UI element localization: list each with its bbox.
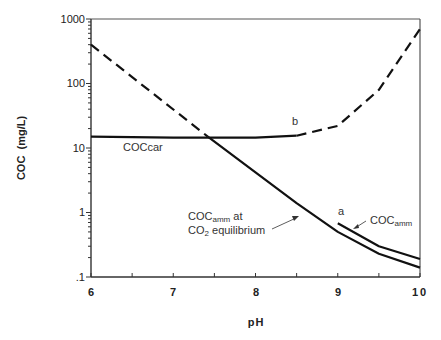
annotation-cocamm-equilibrium-line2: CO2 equilibrium — [188, 224, 265, 238]
x-tick-label: 6 — [88, 286, 94, 298]
arrow-equilibrium — [272, 218, 296, 229]
y-tick-label: 10 — [73, 142, 85, 154]
y-tick-label: 1 — [79, 206, 85, 218]
annotation-cocamm-main: COC — [370, 214, 395, 226]
x-axis-title: pH — [248, 316, 265, 328]
y-tick-label: 1000 — [61, 13, 85, 25]
x-tick-label: 7 — [170, 286, 176, 298]
arrowhead-cocamm-icon — [353, 224, 359, 229]
arrowhead-equilibrium-icon — [292, 216, 299, 221]
series-line-2 — [297, 29, 420, 136]
series-line-0 — [91, 45, 208, 137]
y-minor-ticks — [86, 19, 91, 277]
series-line-1 — [91, 136, 297, 138]
x-tick-label: 9 — [335, 286, 341, 298]
x-tick-label: 8 — [253, 286, 259, 298]
y-tick-labels: .1 1 10 100 1000 — [61, 13, 85, 283]
annotation-a: a — [338, 205, 345, 217]
annotation-cocamm: COCamm — [370, 214, 413, 228]
y-tick-label: 100 — [67, 77, 85, 89]
annotation-coccar: COCcar — [123, 141, 163, 153]
annotation-cocamm-sub: amm — [394, 219, 412, 228]
annotation-cocamm-equilibrium-line1: COCamm at — [188, 210, 242, 224]
annotations: COCcar b a COCamm COCamm at CO2 equilibr… — [120, 115, 413, 238]
x-tick-labels: 6 7 8 9 10 — [88, 286, 428, 298]
x-tick-label: 10 — [412, 286, 428, 298]
coc-vs-ph-chart: .1 1 10 100 1000 6 7 8 9 10 pH COC (mg/L… — [0, 0, 441, 340]
annotation-b: b — [292, 115, 298, 127]
y-tick-label: .1 — [76, 271, 85, 283]
y-axis-title: COC (mg/L) — [15, 116, 27, 180]
